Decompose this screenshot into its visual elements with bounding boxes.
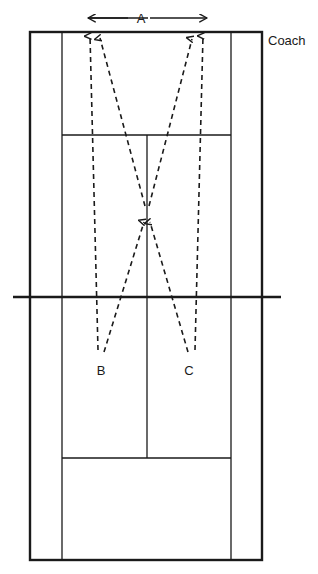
court-diagram: A [0,0,318,574]
court-diagram-canvas: A [0,0,318,574]
label-target-c: C [184,363,193,378]
path-c-to-base [150,222,188,352]
court-lines [13,32,281,560]
path-base-to-rear-left [100,38,145,206]
path-rear-right-to-c [195,36,203,350]
dimension-label-a: A [137,11,146,26]
dimension-arrow-a: A [88,11,207,26]
label-target-b: B [97,363,106,378]
path-rear-left-to-b [90,36,98,350]
path-base-to-rear-right [149,39,192,206]
path-b-to-base [104,222,144,352]
label-coach: Coach [268,33,306,48]
